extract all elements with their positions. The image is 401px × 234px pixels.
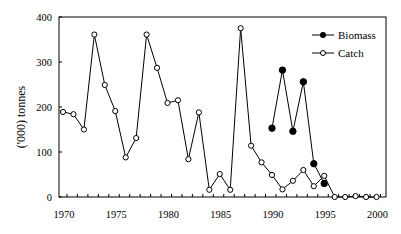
data-point: [186, 157, 191, 162]
y-tick-label: 300: [36, 57, 52, 68]
x-tick-label: 1985: [210, 209, 231, 220]
x-tick-label: 1995: [315, 209, 336, 220]
data-point: [279, 67, 285, 73]
data-point: [249, 143, 254, 148]
data-point: [217, 171, 222, 176]
data-point: [207, 187, 212, 192]
data-point: [60, 109, 65, 114]
data-point: [290, 128, 296, 134]
data-point: [343, 194, 348, 199]
line-chart: 0100200300400 19701975198019851990199520…: [0, 0, 401, 234]
y-axis-title: ('000) tonnes: [14, 85, 28, 148]
y-tick-label: 100: [36, 147, 52, 158]
data-point: [269, 172, 274, 177]
y-tick-label: 0: [47, 192, 52, 203]
y-axis: 0100200300400: [36, 12, 62, 203]
series-biomass: [269, 67, 328, 187]
data-point: [196, 110, 201, 115]
data-point: [321, 180, 327, 186]
data-point: [311, 184, 316, 189]
data-point: [332, 194, 337, 199]
open-circle-marker-icon: [321, 51, 326, 56]
data-point: [92, 32, 97, 37]
x-tick-label: 2000: [367, 209, 388, 220]
data-point: [238, 26, 243, 31]
data-point: [81, 127, 86, 132]
data-point: [311, 161, 317, 167]
x-tick-label: 1980: [158, 209, 179, 220]
data-point: [154, 65, 159, 70]
data-point: [300, 79, 306, 85]
data-point: [290, 178, 295, 183]
data-point: [269, 125, 275, 131]
filled-circle-marker-icon: [320, 32, 326, 38]
series-catch: [60, 26, 379, 200]
data-point: [102, 82, 107, 87]
legend-item-catch: Catch: [312, 47, 364, 59]
data-point: [322, 173, 327, 178]
data-point: [259, 160, 264, 165]
data-point: [374, 194, 379, 199]
data-point: [144, 32, 149, 37]
data-point: [71, 112, 76, 117]
data-point: [280, 187, 285, 192]
legend-label-biomass: Biomass: [338, 29, 376, 41]
data-point: [363, 194, 368, 199]
data-point: [165, 100, 170, 105]
data-point: [353, 194, 358, 199]
data-point: [175, 98, 180, 103]
legend-item-biomass: Biomass: [312, 29, 376, 41]
legend: Biomass Catch: [312, 29, 376, 59]
y-tick-label: 400: [36, 12, 52, 23]
x-tick-label: 1990: [263, 209, 284, 220]
data-point: [134, 135, 139, 140]
legend-label-catch: Catch: [338, 47, 364, 59]
x-axis: 1970197519801985199019952000: [54, 194, 389, 220]
data-point: [301, 167, 306, 172]
x-tick-label: 1970: [54, 209, 75, 220]
data-point: [113, 108, 118, 113]
data-point: [228, 187, 233, 192]
y-tick-label: 200: [36, 102, 52, 113]
x-tick-label: 1975: [106, 209, 127, 220]
plot-frame: [59, 17, 386, 197]
data-point: [123, 155, 128, 160]
